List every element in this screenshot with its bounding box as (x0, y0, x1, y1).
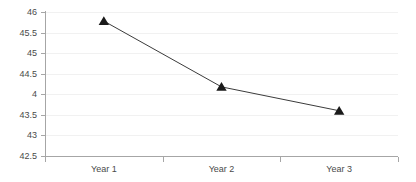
data-point-marker (99, 16, 109, 25)
series-line (104, 21, 339, 111)
line-chart: 4645.54544.5443.54342.5 Year 1Year 2Year… (0, 0, 416, 182)
series-markers (99, 16, 345, 114)
data-series (0, 0, 416, 182)
data-point-marker (216, 82, 226, 91)
